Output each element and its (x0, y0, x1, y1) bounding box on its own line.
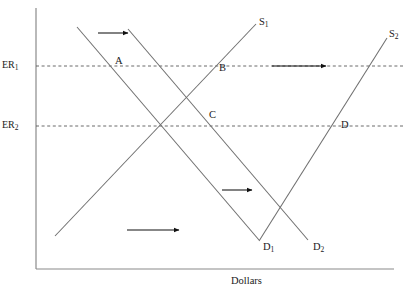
supply-curve-2 (259, 38, 387, 241)
tick-label-er1-text: ER (2, 59, 15, 70)
curve-label-d2-text: D (313, 241, 321, 252)
point-label-a-text: A (115, 55, 123, 66)
demand-curve-1 (77, 27, 259, 240)
curve-label-d1-subscript: 1 (271, 245, 275, 254)
point-label-c-text: C (209, 109, 216, 120)
tick-label-er2: ER2 (2, 120, 19, 130)
point-label-d-text: D (341, 119, 349, 130)
axes-group (36, 8, 394, 269)
point-label-a: A (115, 56, 123, 67)
tick-label-er1-subscript: 1 (15, 63, 19, 72)
figure-canvas (0, 0, 406, 289)
curve-label-s1: S1 (259, 17, 269, 28)
point-label-b: B (219, 63, 226, 74)
curve-label-s2-subscript: 2 (395, 32, 399, 41)
curve-label-s2: S2 (389, 29, 399, 40)
curve-label-s1-subscript: 1 (265, 20, 269, 29)
reference-lines-group (36, 66, 404, 126)
demand-curve-2 (128, 29, 308, 240)
tick-label-er2-subscript: 2 (15, 123, 19, 132)
point-label-c: C (209, 110, 216, 121)
curve-label-d1: D1 (263, 242, 274, 253)
curve-label-s2-text: S (389, 28, 395, 39)
point-label-b-text: B (219, 62, 226, 73)
supply-demand-figure: ER1ER2S1S2D1D2ABCD Dollars (0, 0, 406, 289)
tick-label-er2-text: ER (2, 119, 15, 130)
curve-label-s1-text: S (259, 16, 265, 27)
curve-label-d2-subscript: 2 (321, 245, 325, 254)
point-label-d: D (341, 120, 349, 131)
arrows-group (98, 33, 326, 230)
supply-curve-1 (55, 24, 256, 236)
x-axis-title: Dollars (231, 276, 262, 287)
curve-label-d2: D2 (313, 242, 324, 253)
curves-group (55, 24, 387, 241)
tick-label-er1: ER1 (2, 60, 19, 70)
curve-label-d1-text: D (263, 241, 271, 252)
